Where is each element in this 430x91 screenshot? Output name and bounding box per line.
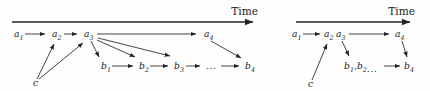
right-panel: Time a1 a2 a3 a4 b1,b2... b4 c <box>292 5 415 89</box>
node-b1-left: b1 <box>101 60 111 74</box>
node-a3-left: a3 <box>84 28 94 42</box>
node-a2-right: a2 <box>324 28 334 42</box>
ellipsis-left: ... <box>206 60 217 71</box>
figure-container: Time a1 a2 a3 a4 b1 b2 b3 <box>0 0 430 91</box>
node-a1-left-sub: 1 <box>19 34 23 42</box>
node-a4-right: a4 <box>395 28 405 42</box>
edge-c-to-a2-right <box>312 44 327 80</box>
left-panel: Time a1 a2 a3 a4 b1 b2 b3 <box>12 5 258 88</box>
node-a1-left: a1 <box>14 28 24 42</box>
node-a3-left-sub: 3 <box>89 34 93 42</box>
edge-a4-to-b4-right <box>402 41 407 57</box>
edge-a3-to-bgroup-right <box>342 41 349 56</box>
node-a3-right: a3 <box>336 28 346 42</box>
right-time-axis-label: Time <box>388 5 415 17</box>
node-a4-left: a4 <box>204 28 214 42</box>
node-a4-left-sub: 4 <box>208 34 213 42</box>
timeline-diagram-svg: Time a1 a2 a3 a4 b1 b2 b3 <box>0 0 430 91</box>
node-b1-left-sub: 1 <box>107 66 111 74</box>
node-a2-left-sub: 2 <box>56 34 61 42</box>
node-a3-right-sub: 3 <box>341 34 345 42</box>
edge-a3-to-b3-left <box>98 38 170 56</box>
node-b2-left-sub: 2 <box>144 66 149 74</box>
node-b4-right-sub: 4 <box>409 66 414 74</box>
node-b4-right: b4 <box>404 60 414 74</box>
edge-a4-to-b4-left <box>211 41 241 58</box>
left-time-axis-label: Time <box>231 5 258 17</box>
node-bgroup-ellipsis: ... <box>367 63 378 74</box>
node-b3-left: b3 <box>174 60 184 74</box>
node-a1-right: a1 <box>292 28 302 42</box>
node-b3-left-sub: 3 <box>180 66 184 74</box>
node-a1-right-sub: 1 <box>297 34 301 42</box>
node-b4-left-sub: 4 <box>250 66 255 74</box>
node-a2-left: a2 <box>52 28 62 42</box>
edge-a3-to-b1-left <box>91 41 99 57</box>
node-b2-left: b2 <box>139 60 149 74</box>
node-a4-right-sub: 4 <box>399 34 404 42</box>
node-a2-right-sub: 2 <box>328 34 333 42</box>
node-bgroup-right: b1,b2... <box>344 60 377 74</box>
node-b4-left: b4 <box>245 60 255 74</box>
